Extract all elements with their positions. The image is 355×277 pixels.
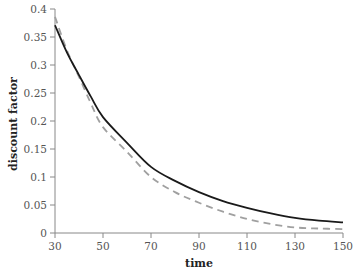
y-tick-label: 0.05	[24, 199, 47, 211]
y-tick-label: 0.2	[30, 115, 47, 127]
discount-factor-chart: 00.050.10.150.20.250.30.350.4 3050709011…	[0, 0, 355, 277]
y-tick-label: 0.3	[30, 59, 47, 71]
y-axis-title: discount factor	[7, 77, 20, 171]
y-tick-label: 0.1	[30, 171, 47, 183]
x-tick-label: 130	[285, 240, 305, 252]
x-axis-ticks: 30507090110130150	[48, 233, 353, 252]
y-tick-label: 0.15	[24, 143, 47, 155]
y-tick-label: 0.25	[24, 87, 47, 99]
x-tick-label: 50	[96, 240, 109, 252]
series-layer	[55, 17, 343, 229]
series-line-dashed	[55, 17, 343, 229]
y-tick-label: 0.4	[30, 3, 47, 15]
x-tick-label: 110	[237, 240, 257, 252]
x-tick-label: 30	[48, 240, 61, 252]
x-axis-title: time	[185, 257, 213, 270]
series-line-solid	[55, 25, 343, 222]
x-tick-label: 70	[144, 240, 157, 252]
y-tick-label: 0.35	[24, 31, 47, 43]
y-axis-ticks: 00.050.10.150.20.250.30.350.4	[24, 3, 55, 239]
x-tick-label: 150	[333, 240, 353, 252]
x-tick-label: 90	[192, 240, 205, 252]
y-tick-label: 0	[40, 227, 47, 239]
